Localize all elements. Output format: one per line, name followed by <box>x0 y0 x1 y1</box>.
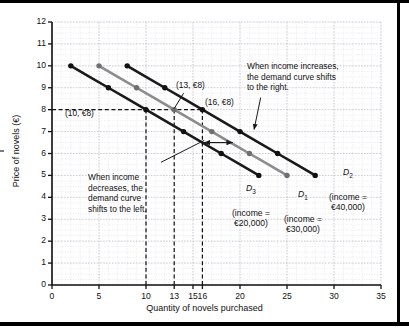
annotation-income-decrease: When income decreases, the demand curve … <box>88 172 168 214</box>
curve-label-d1-income: (income = €30,000) <box>284 214 322 235</box>
y-tick-10: 10 <box>24 60 46 70</box>
point-label-16-8: (16, €8) <box>205 97 234 107</box>
x-tick-25: 25 <box>275 291 299 301</box>
y-tick-12: 12 <box>24 16 46 26</box>
curve-label-d3-income: (income = €20,000) <box>232 208 270 229</box>
y-tick-2: 2 <box>24 235 46 245</box>
y-tick-4: 4 <box>24 191 46 201</box>
y-axis-title: Price of novels (€) <box>11 81 21 221</box>
curve-label-d2: D2 (income = €40,000) <box>320 156 376 213</box>
y-tick-5: 5 <box>24 169 46 179</box>
plot-area: 051013151620253035 0123456789101112 When… <box>0 0 409 333</box>
x-tick-16: 16 <box>190 291 214 301</box>
annotation-income-increase: When income increases, the demand curve … <box>247 61 387 93</box>
point-label-13-8: (13, €8) <box>176 80 205 90</box>
y-tick-1: 1 <box>24 257 46 267</box>
x-tick-35: 35 <box>369 291 393 301</box>
curve-label-d2-name: D2 <box>343 167 353 177</box>
y-tick-6: 6 <box>24 148 46 158</box>
y-tick-0: 0 <box>24 279 46 289</box>
x-tick-0: 0 <box>40 291 64 301</box>
point-label-10-8: (10, €8) <box>65 108 94 118</box>
x-tick-20: 20 <box>228 291 252 301</box>
curve-label-d2-income: (income = €40,000) <box>329 192 367 213</box>
curve-label-d1-name: D1 <box>298 189 308 199</box>
y-tick-7: 7 <box>24 126 46 136</box>
y-tick-8: 8 <box>24 104 46 114</box>
x-axis-title: Quantity of novels purchased <box>0 303 409 313</box>
demand-curve-figure: 051013151620253035 0123456789101112 When… <box>0 0 409 333</box>
x-tick-5: 5 <box>87 291 111 301</box>
y-tick-11: 11 <box>24 38 46 48</box>
y-tick-9: 9 <box>24 82 46 92</box>
curve-label-d3-name: D3 <box>246 183 256 193</box>
curve-label-d3: D3 (income = €20,000) <box>226 172 276 229</box>
x-tick-10: 10 <box>134 291 158 301</box>
x-tick-30: 30 <box>322 291 346 301</box>
y-tick-3: 3 <box>24 213 46 223</box>
